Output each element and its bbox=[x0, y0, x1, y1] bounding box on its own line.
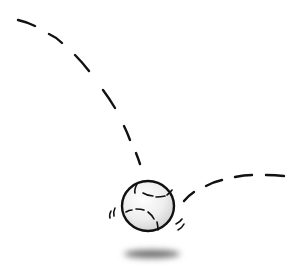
trajectory-dash bbox=[103, 90, 115, 108]
trajectory-dash bbox=[136, 153, 140, 164]
motion-line-right bbox=[178, 224, 184, 230]
trajectory-dash bbox=[206, 180, 222, 186]
bouncing-baseball-illustration bbox=[0, 0, 299, 274]
ground-shadow bbox=[124, 250, 180, 258]
trajectory-dash bbox=[124, 126, 130, 140]
trajectory-dash bbox=[266, 175, 284, 176]
trajectory-dash bbox=[75, 55, 89, 71]
outgoing-trajectory bbox=[184, 175, 284, 201]
trajectory-dash bbox=[18, 20, 35, 26]
baseball bbox=[122, 181, 174, 231]
trajectory-dash bbox=[184, 192, 194, 201]
ball-outline bbox=[122, 181, 174, 231]
trajectory-dash bbox=[49, 34, 62, 43]
motion-line-left bbox=[114, 208, 115, 216]
motion-line-left bbox=[110, 211, 111, 218]
motion-line-right bbox=[176, 219, 182, 224]
incoming-trajectory bbox=[18, 20, 140, 164]
trajectory-dash bbox=[235, 175, 252, 177]
